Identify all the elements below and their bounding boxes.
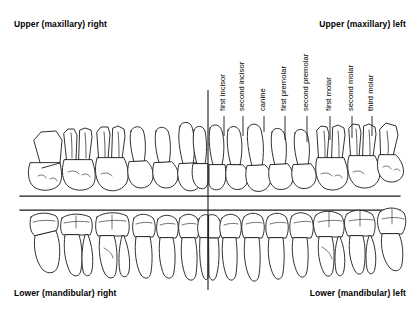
upper-left-second-incisor — [226, 126, 248, 189]
tooth-label-first-incisor: first incisor — [218, 74, 227, 111]
quadrant-label-lower-left: Lower (mandibular) left — [310, 288, 406, 298]
tooth-label-third-molar: third molar — [366, 75, 375, 111]
lower-left-second-incisor — [220, 214, 242, 280]
upper-right-second-incisor — [192, 126, 208, 188]
lower-left-second-premolar — [290, 213, 314, 277]
lower-right-second-premolar — [133, 214, 156, 278]
upper-right-first-molar — [95, 126, 128, 191]
occlusal-separator-lines — [20, 196, 400, 210]
upper-right-second-premolar — [128, 127, 153, 188]
upper-left-third-molar — [377, 123, 403, 182]
upper-left-first-premolar — [269, 128, 293, 189]
upper-left-first-molar — [316, 125, 348, 190]
tooth-label-canine: canine — [258, 88, 267, 111]
lower-left-second-molar — [344, 210, 375, 274]
tooth-label-second-incisor: second incisor — [237, 62, 246, 111]
upper-left-second-premolar — [292, 129, 316, 188]
tooth-label-second-molar: second molar — [346, 65, 355, 111]
upper-right-third-molar — [28, 131, 62, 190]
lower-arch-group — [30, 208, 406, 281]
upper-left-canine — [246, 124, 271, 191]
lower-left-canine — [242, 213, 265, 281]
teeth-illustration — [0, 0, 418, 314]
dental-arch-diagram: Upper (maxillary) right Upper (maxillary… — [0, 0, 418, 314]
lower-right-second-molar — [61, 214, 93, 276]
tooth-label-first-premolar: first premolar — [279, 66, 288, 111]
lower-right-third-molar — [30, 213, 60, 273]
lower-left-third-molar — [377, 208, 405, 271]
upper-right-first-premolar — [153, 127, 178, 188]
quadrant-label-upper-right: Upper (maxillary) right — [14, 19, 107, 29]
upper-arch-group — [28, 122, 403, 191]
upper-left-second-molar — [348, 124, 380, 188]
tooth-label-first-molar: first molar — [324, 77, 333, 111]
lower-left-first-molar — [313, 211, 344, 276]
quadrant-label-lower-right: Lower (mandibular) right — [14, 288, 117, 298]
lower-right-canine — [179, 214, 200, 280]
lower-right-first-molar — [96, 213, 130, 278]
upper-right-second-molar — [62, 128, 95, 190]
quadrant-label-upper-left: Upper (maxillary) left — [319, 19, 406, 29]
lower-left-first-premolar — [266, 213, 289, 279]
lower-right-second-incisor — [198, 215, 208, 280]
lower-right-first-premolar — [157, 215, 179, 278]
tooth-label-second-premolar: second premolar — [301, 54, 310, 111]
upper-left-first-incisor — [209, 125, 226, 190]
lower-left-first-incisor — [209, 215, 221, 281]
